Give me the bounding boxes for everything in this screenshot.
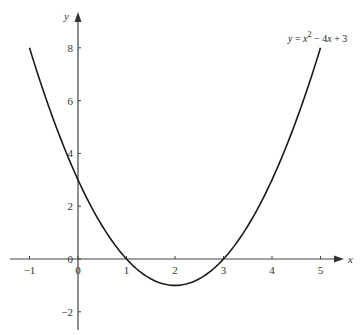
y-tick-label: 8 — [68, 42, 74, 54]
x-axis-label: x — [347, 253, 353, 265]
y-axis-arrow-icon — [75, 12, 82, 22]
y-tick-label: −2 — [61, 306, 73, 318]
y-tick-label: 2 — [68, 200, 74, 212]
x-tick-label: 4 — [269, 264, 275, 276]
parabola-chart: −1012345 −202468 x y y = x2 − 4x + 3 — [0, 0, 362, 335]
x-tick-label: −1 — [24, 264, 36, 276]
y-axis-label: y — [63, 10, 69, 22]
y-tick-label: 0 — [68, 253, 74, 265]
equation-label: y = x2 − 4x + 3 — [287, 30, 347, 44]
x-axis-arrow-icon — [334, 256, 344, 263]
parabola-curve — [30, 48, 321, 286]
x-tick-label: 1 — [124, 264, 130, 276]
x-tick-label: 2 — [172, 264, 178, 276]
x-tick-label: 5 — [318, 264, 324, 276]
x-tick-label: 3 — [221, 264, 227, 276]
y-tick-label: 6 — [68, 95, 74, 107]
x-tick-label: 0 — [75, 264, 81, 276]
